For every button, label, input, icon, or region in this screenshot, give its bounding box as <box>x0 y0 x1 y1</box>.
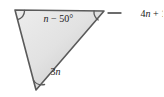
geometry-figure: n − 50° 4n + 10° 3n <box>0 0 163 97</box>
triangle-diagram-svg: n − 50° 4n + 10° 3n <box>0 0 163 97</box>
angle-label-top-left-rest: − 50° <box>49 13 74 24</box>
angle-label-top-left: n − 50° <box>26 13 86 24</box>
angle-label-top-right-rest: + 10° <box>151 8 164 19</box>
angle-label-bottom-variable: n <box>56 66 61 77</box>
angle-label-bottom: 3n <box>33 66 73 77</box>
angle-label-top-right: 4n + 10° <box>123 8 163 19</box>
